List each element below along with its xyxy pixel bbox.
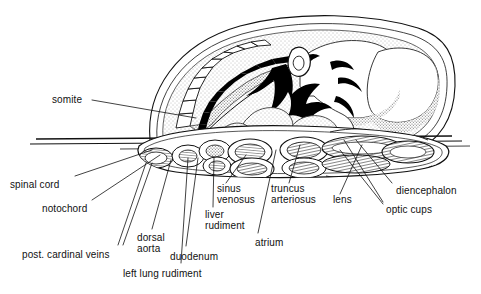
label-sinus-venosus: sinus venosus — [217, 183, 255, 205]
label-atrium: atrium — [255, 237, 283, 248]
label-liver-rudiment: liver rudiment — [205, 209, 245, 231]
leader-dorsal-aorta — [152, 160, 171, 229]
embryo-diagram: somite spinal cord notochord post. cardi… — [0, 0, 481, 294]
label-notochord: notochord — [42, 203, 87, 214]
label-dorsal-aorta: dorsal aorta — [137, 232, 165, 254]
label-truncus-arteriosus: truncus arteriosus — [271, 183, 316, 205]
label-optic-cups: optic cups — [386, 204, 432, 215]
label-lens: lens — [333, 194, 352, 205]
label-spinal-cord: spinal cord — [10, 179, 59, 190]
label-post-cardinal-veins: post. cardinal veins — [22, 249, 110, 260]
leader-spinal-cord — [75, 150, 152, 176]
label-duodenum: duodenum — [170, 251, 218, 262]
label-diencephalon: diencephalon — [396, 185, 457, 196]
leader-notochord — [92, 155, 160, 200]
label-somite: somite — [52, 94, 82, 105]
label-left-lung-rudiment: left lung rudiment — [123, 268, 202, 279]
leader-left-lung-rudiment — [181, 158, 188, 263]
